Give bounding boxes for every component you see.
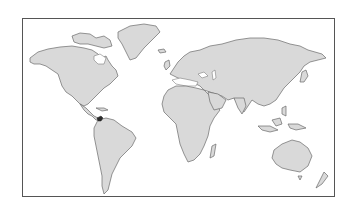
madagascar xyxy=(210,144,216,158)
australia xyxy=(272,140,312,172)
borneo xyxy=(272,118,282,126)
north-america xyxy=(30,46,118,106)
caribbean-islands xyxy=(96,108,108,111)
tasmania xyxy=(298,176,302,180)
new-zealand xyxy=(316,172,328,188)
new-guinea xyxy=(288,124,306,130)
philippines xyxy=(282,106,286,116)
indonesia xyxy=(258,126,278,132)
arctic-islands xyxy=(72,33,112,48)
caspian-sea xyxy=(212,70,216,80)
japan xyxy=(300,70,308,82)
iceland xyxy=(158,49,166,53)
central-america xyxy=(80,104,100,120)
british-isles xyxy=(164,60,170,70)
world-map xyxy=(0,0,351,210)
south-america xyxy=(94,118,136,194)
greenland xyxy=(118,24,160,60)
